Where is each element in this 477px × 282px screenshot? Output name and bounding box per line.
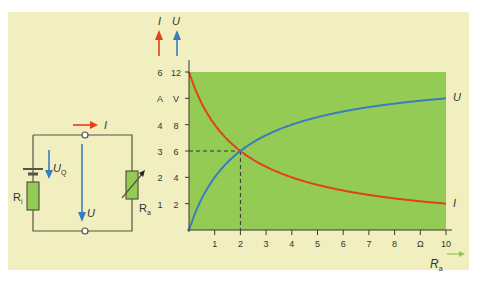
x-tick-label: 5 bbox=[315, 239, 320, 249]
y-tick-label-I: 1 bbox=[157, 200, 162, 210]
y-axis-I-label: I bbox=[158, 15, 161, 27]
y-tick-label-U: 4 bbox=[173, 173, 178, 183]
y-axis-U-label: U bbox=[172, 15, 180, 27]
current-curve-label: I bbox=[453, 197, 456, 209]
y-tick-label-U: 6 bbox=[173, 147, 178, 157]
x-tick-label: 6 bbox=[341, 239, 346, 249]
y-tick-label-U: V bbox=[173, 94, 179, 104]
y-tick-label-U: 2 bbox=[173, 200, 178, 210]
x-tick-label: 3 bbox=[264, 239, 269, 249]
y-tick-label-I: 6 bbox=[157, 68, 162, 78]
x-tick-label: Ω bbox=[417, 239, 424, 249]
load-resistor bbox=[126, 171, 138, 199]
x-tick-label: 4 bbox=[289, 239, 294, 249]
voltage-curve-label: U bbox=[453, 91, 461, 103]
y-tick-label-I: A bbox=[157, 94, 163, 104]
terminal-voltage-label: U bbox=[87, 207, 95, 219]
x-tick-label: 10 bbox=[441, 239, 451, 249]
x-tick-label: 2 bbox=[238, 239, 243, 249]
diagram-panel: I UQ U Ri Ra 12243648AV612 12345678Ω10 I… bbox=[0, 0, 477, 282]
x-tick-label: 1 bbox=[212, 239, 217, 249]
y-tick-label-U: 8 bbox=[173, 121, 178, 131]
y-tick-label-U: 12 bbox=[171, 68, 181, 78]
y-tick-label-I: 2 bbox=[157, 173, 162, 183]
x-tick-label: 7 bbox=[366, 239, 371, 249]
x-tick-label: 8 bbox=[392, 239, 397, 249]
circuit-current-label: I bbox=[104, 119, 107, 131]
terminal-bottom bbox=[82, 228, 88, 234]
voltage-current-diagram: I UQ U Ri Ra 12243648AV612 12345678Ω10 I… bbox=[0, 0, 477, 282]
y-tick-label-I: 4 bbox=[157, 121, 162, 131]
internal-resistor bbox=[27, 182, 39, 210]
y-tick-label-I: 3 bbox=[157, 147, 162, 157]
terminal-top bbox=[82, 132, 88, 138]
